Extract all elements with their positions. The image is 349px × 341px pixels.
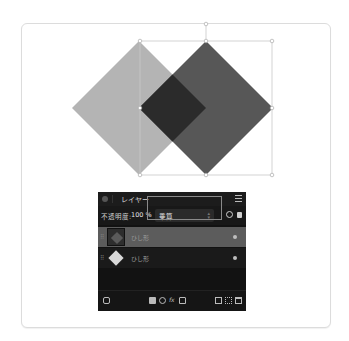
layer-options-row: 不透明度: 100 % ▸ 乗算 ▴▾ xyxy=(98,206,246,225)
panel-menu-icon[interactable] xyxy=(235,195,242,202)
add-pixel-layer-icon[interactable] xyxy=(215,297,222,304)
group-icon[interactable] xyxy=(225,297,232,304)
layer-row[interactable]: ⠿ ひし形 xyxy=(98,248,246,268)
layers-panel: レイヤー 不透明度: 100 % ▸ 乗算 ▴▾ ⠿ ひし形 ⠿ ひし形 fx xyxy=(98,192,246,311)
opacity-label: 不透明度: xyxy=(101,211,131,221)
blend-mode-dropdown[interactable]: 乗算 ▴▾ xyxy=(155,209,214,222)
opacity-caret-icon[interactable]: ▸ xyxy=(149,211,152,217)
layer-name[interactable]: ひし形 xyxy=(131,233,149,242)
live-filter-icon[interactable] xyxy=(179,297,186,304)
dropdown-arrows-icon: ▴▾ xyxy=(207,211,210,219)
gear-icon[interactable] xyxy=(226,211,233,218)
blend-mode-value: 乗算 xyxy=(159,211,173,221)
adjustment-icon[interactable] xyxy=(159,297,166,304)
layer-row-selected[interactable]: ⠿ ひし形 xyxy=(98,227,246,247)
tab-separator xyxy=(112,195,113,203)
visibility-dot-icon[interactable] xyxy=(233,256,237,260)
visibility-dot-icon[interactable] xyxy=(233,235,237,239)
rotate-handle xyxy=(204,22,208,26)
layer-options-icon[interactable] xyxy=(103,297,110,304)
fx-icon[interactable]: fx xyxy=(169,296,176,303)
panel-titlebar: レイヤー xyxy=(98,192,246,206)
drag-handle-icon[interactable]: ⠿ xyxy=(100,233,103,240)
trash-icon[interactable] xyxy=(235,297,242,304)
mask-icon[interactable] xyxy=(149,297,156,304)
panel-title[interactable]: レイヤー xyxy=(121,194,149,204)
layer-thumbnail xyxy=(107,249,125,267)
lock-icon[interactable] xyxy=(237,212,242,218)
panel-close-icon[interactable] xyxy=(102,196,108,202)
panel-bottom-toolbar: fx xyxy=(98,290,246,311)
layer-name[interactable]: ひし形 xyxy=(131,254,149,263)
layer-thumbnail xyxy=(107,228,125,246)
drag-handle-icon[interactable]: ⠿ xyxy=(100,254,103,261)
